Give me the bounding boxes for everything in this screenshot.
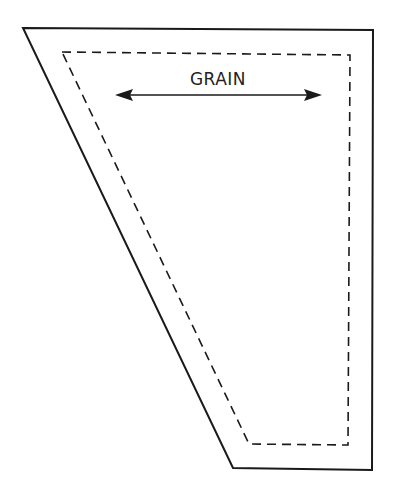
grain-label: GRAIN [190,69,246,89]
grain-arrow [115,89,322,101]
pattern-diagram: GRAIN [0,0,394,502]
seam-line-dashed [62,52,350,445]
